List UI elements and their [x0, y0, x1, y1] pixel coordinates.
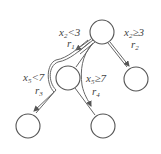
condition-label-x5-ge-7: x5≥7	[85, 72, 106, 86]
tree-node-right	[124, 67, 148, 91]
region-label-r2: r2	[131, 38, 139, 52]
region-label-r4: r4	[92, 85, 100, 99]
region-label-r3: r3	[35, 84, 43, 98]
tree-node-left	[56, 66, 80, 90]
condition-label-x5-lt-7: x5<7	[22, 71, 45, 85]
tree-node-left-left	[16, 114, 40, 138]
tree-node-left-right	[91, 114, 115, 138]
edge-root-to-right	[108, 42, 129, 67]
decision-tree-diagram: x2<3 r1 x2≥3 r2 x5<7 r3 x5≥7 r4	[0, 0, 161, 154]
region-label-r1: r1	[67, 37, 75, 51]
tree-node-root	[90, 20, 114, 44]
edge-root-to-left	[76, 39, 95, 67]
